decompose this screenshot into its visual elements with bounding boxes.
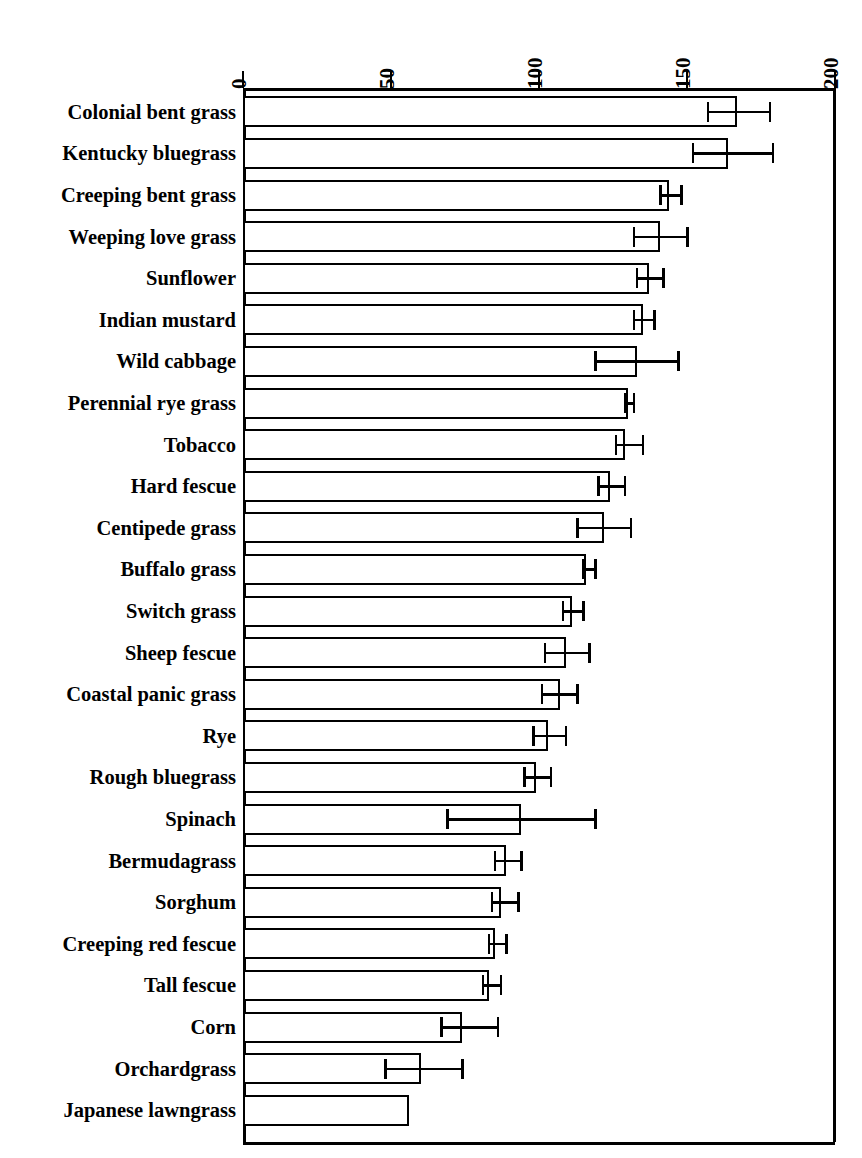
category-label: Corn — [190, 1017, 236, 1038]
bar — [243, 970, 489, 1001]
error-bar-cap-low — [594, 351, 597, 371]
error-bar-line — [634, 236, 687, 239]
bar — [243, 1012, 462, 1043]
error-bar-cap-high — [677, 351, 680, 371]
error-bar-line — [441, 1026, 497, 1029]
chart-row: Weeping love grass — [0, 221, 862, 252]
category-label: Sheep fescue — [125, 643, 236, 664]
bar — [243, 180, 669, 211]
category-label: Switch grass — [126, 601, 236, 622]
error-bar-cap-high — [582, 601, 585, 621]
error-bar-cap-low — [633, 310, 636, 330]
error-bar-cap-high — [500, 975, 503, 995]
bar — [243, 887, 501, 918]
error-bar-line — [542, 693, 578, 696]
bar — [243, 596, 572, 627]
error-bar-cap-high — [517, 892, 520, 912]
bar — [243, 138, 728, 169]
error-bar-cap-low — [597, 476, 600, 496]
error-bar-cap-low — [576, 518, 579, 538]
category-label: Rough bluegrass — [90, 767, 236, 788]
chart-row: Wild cabbage — [0, 346, 862, 377]
error-bar-line — [708, 111, 770, 114]
error-bar-cap-low — [494, 851, 497, 871]
error-bar-line — [545, 652, 589, 655]
error-bar-cap-high — [461, 1059, 464, 1079]
category-label: Coastal panic grass — [66, 684, 236, 705]
error-bar-cap-low — [491, 892, 494, 912]
bar — [243, 554, 586, 585]
chart-row: Sorghum — [0, 887, 862, 918]
category-label: Wild cabbage — [116, 351, 236, 372]
error-bar-cap-high — [769, 102, 772, 122]
error-bar-cap-low — [636, 268, 639, 288]
error-bar-line — [616, 444, 643, 447]
error-bar-cap-low — [523, 767, 526, 787]
error-bar-cap-high — [624, 476, 627, 496]
error-bar-cap-low — [624, 393, 627, 413]
chart-row: Tall fescue — [0, 970, 862, 1001]
error-bar-line — [660, 194, 681, 197]
error-bar-cap-high — [565, 726, 568, 746]
bar — [243, 221, 660, 252]
bar — [243, 346, 637, 377]
error-bar-cap-low — [532, 726, 535, 746]
category-label: Sunflower — [146, 268, 236, 289]
error-bar-cap-high — [653, 310, 656, 330]
chart-row: Switch grass — [0, 596, 862, 627]
error-bar-cap-low — [488, 934, 491, 954]
category-label: Rye — [203, 726, 236, 747]
error-bar-cap-high — [594, 559, 597, 579]
error-bar-line — [598, 485, 625, 488]
error-bar-line — [563, 610, 584, 613]
chart-row: Creeping red fescue — [0, 928, 862, 959]
error-bar-line — [637, 277, 664, 280]
error-bar-cap-low — [692, 143, 695, 163]
chart-row: Hard fescue — [0, 471, 862, 502]
chart-row: Bermudagrass — [0, 845, 862, 876]
bar — [243, 845, 506, 876]
error-bar-cap-low — [482, 975, 485, 995]
error-bar-cap-high — [772, 143, 775, 163]
error-bar-line — [634, 319, 655, 322]
error-bar-cap-high — [520, 851, 523, 871]
error-bar-cap-low — [541, 684, 544, 704]
error-bar-line — [483, 984, 501, 987]
chart-row: Sunflower — [0, 263, 862, 294]
error-bar-line — [524, 776, 551, 779]
category-label: Spinach — [165, 809, 236, 830]
category-label: Hard fescue — [131, 476, 236, 497]
error-bar-cap-low — [440, 1017, 443, 1037]
error-bar-cap-low — [544, 643, 547, 663]
chart-row: Orchardgrass — [0, 1053, 862, 1084]
error-bar-cap-high — [588, 643, 591, 663]
error-bar-cap-low — [659, 185, 662, 205]
category-label: Kentucky bluegrass — [62, 143, 236, 164]
bar — [243, 429, 625, 460]
bar — [243, 388, 628, 419]
error-bar-line — [447, 818, 595, 821]
category-label: Orchardgrass — [115, 1059, 236, 1080]
bar — [243, 928, 495, 959]
bar — [243, 512, 604, 543]
chart-row: Corn — [0, 1012, 862, 1043]
error-bar-cap-high — [505, 934, 508, 954]
category-label: Sorghum — [155, 892, 236, 913]
bar — [243, 304, 643, 335]
chart-row: Rye — [0, 720, 862, 751]
error-bar-cap-low — [633, 227, 636, 247]
error-bar-cap-low — [446, 809, 449, 829]
chart-row: Centipede grass — [0, 512, 862, 543]
category-label: Weeping love grass — [69, 227, 236, 248]
category-label: Creeping red fescue — [63, 934, 236, 955]
chart-row: Buffalo grass — [0, 554, 862, 585]
chart-row: Indian mustard — [0, 304, 862, 335]
chart-row: Kentucky bluegrass — [0, 138, 862, 169]
error-bar-cap-high — [686, 227, 689, 247]
chart-row: Tobacco — [0, 429, 862, 460]
bar — [243, 471, 610, 502]
category-label: Indian mustard — [99, 310, 236, 331]
error-bar-line — [577, 527, 630, 530]
chart-row: Rough bluegrass — [0, 762, 862, 793]
error-bar-line — [533, 735, 566, 738]
